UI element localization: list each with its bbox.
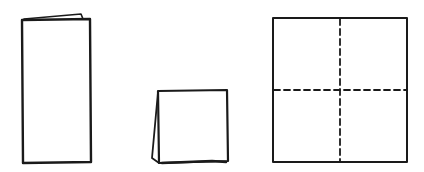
- paper-folding-diagram: [0, 0, 424, 172]
- step-3-unfolded-square: [273, 18, 407, 162]
- step-2-outline: [158, 90, 228, 163]
- step-2-bottom-shadow: [162, 161, 226, 163]
- step-2-folded-square: [152, 90, 228, 163]
- step-1-outline: [22, 19, 91, 163]
- step-1-tall-folded-rectangle: [22, 14, 91, 163]
